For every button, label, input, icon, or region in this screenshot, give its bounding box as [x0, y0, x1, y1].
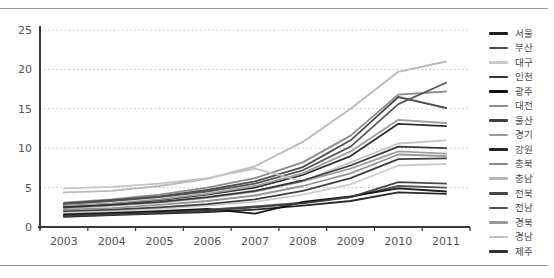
- x-tick-label-2008: 2008: [289, 235, 317, 248]
- y-tick-label-20: 20: [18, 63, 32, 76]
- legend-item-gyeongbuk: 경북: [489, 215, 553, 230]
- legend-swatch-gwangju: [489, 90, 508, 93]
- legend-swatch-seoul: [489, 32, 508, 35]
- x-tick-label-2003: 2003: [50, 235, 78, 248]
- legend-label-gwangju: 광주: [515, 87, 533, 97]
- legend-item-busan: 부산: [489, 41, 553, 56]
- x-tick-label-2006: 2006: [193, 235, 221, 248]
- x-tick-label-2010: 2010: [384, 235, 412, 248]
- legend-swatch-incheon: [489, 76, 508, 79]
- legend-label-jeonnam: 전남: [515, 203, 533, 213]
- legend-swatch-busan: [489, 47, 508, 50]
- legend-label-chungbuk: 충북: [515, 159, 533, 169]
- legend-item-seoul: 서울: [489, 26, 553, 41]
- legend-label-gyeongbuk: 경북: [515, 218, 533, 228]
- legend-item-incheon: 인천: [489, 70, 553, 85]
- legend-swatch-ulsan: [489, 119, 508, 122]
- legend-item-chungbuk: 충북: [489, 157, 553, 172]
- scanned-chart-page: 0510152025200320042005200620072008200920…: [0, 0, 554, 278]
- legend-swatch-jeonbuk: [489, 192, 508, 195]
- legend-swatch-gyeongnam: [489, 236, 508, 239]
- y-tick-label-5: 5: [25, 182, 32, 195]
- legend-swatch-jeonnam: [489, 207, 508, 210]
- legend-item-gwangju: 광주: [489, 84, 553, 99]
- legend-item-gyeongnam: 경남: [489, 230, 553, 245]
- x-tick-label-2005: 2005: [145, 235, 173, 248]
- legend-label-seoul: 서울: [515, 29, 533, 39]
- legend-label-gyeonggi: 경기: [515, 130, 533, 140]
- legend-label-chungnam: 충남: [515, 174, 533, 184]
- legend-label-gyeongnam: 경남: [515, 232, 533, 242]
- legend-label-ulsan: 울산: [515, 116, 533, 126]
- legend-label-daegu: 대구: [515, 58, 533, 68]
- x-tick-label-2009: 2009: [337, 235, 365, 248]
- y-tick-label-0: 0: [25, 221, 32, 234]
- legend-label-incheon: 인천: [515, 72, 533, 82]
- legend-item-jeonnam: 전남: [489, 201, 553, 216]
- x-tick-label-2011: 2011: [432, 235, 460, 248]
- legend-item-ulsan: 울산: [489, 113, 553, 128]
- y-tick-label-15: 15: [18, 103, 32, 116]
- legend-label-gangwon: 강원: [515, 145, 533, 155]
- legend: 서울부산대구인천광주대전울산경기강원충북충남전북전남경북경남제주: [489, 26, 553, 259]
- legend-label-busan: 부산: [515, 43, 533, 53]
- legend-swatch-daejeon: [489, 105, 508, 108]
- legend-item-chungnam: 충남: [489, 171, 553, 186]
- legend-item-daejeon: 대전: [489, 99, 553, 114]
- legend-label-jeju: 제주: [515, 247, 533, 257]
- x-tick-label-2007: 2007: [241, 235, 269, 248]
- x-tick-label-2004: 2004: [98, 235, 126, 248]
- legend-swatch-gyeonggi: [489, 134, 508, 137]
- legend-item-jeju: 제주: [489, 244, 553, 259]
- line-chart: 0510152025200320042005200620072008200920…: [0, 0, 554, 278]
- y-tick-label-10: 10: [18, 142, 32, 155]
- legend-label-jeonbuk: 전북: [515, 189, 533, 199]
- y-tick-label-25: 25: [18, 24, 32, 37]
- legend-swatch-daegu: [489, 61, 508, 64]
- bottom-rule: [0, 265, 548, 266]
- legend-swatch-chungbuk: [489, 163, 508, 166]
- legend-item-jeonbuk: 전북: [489, 186, 553, 201]
- legend-label-daejeon: 대전: [515, 101, 533, 111]
- legend-item-gyeonggi: 경기: [489, 128, 553, 143]
- legend-swatch-gangwon: [489, 148, 508, 151]
- legend-item-gangwon: 강원: [489, 142, 553, 157]
- legend-item-daegu: 대구: [489, 55, 553, 70]
- legend-swatch-jeju: [489, 250, 508, 253]
- legend-swatch-chungnam: [489, 177, 508, 180]
- legend-swatch-gyeongbuk: [489, 221, 508, 224]
